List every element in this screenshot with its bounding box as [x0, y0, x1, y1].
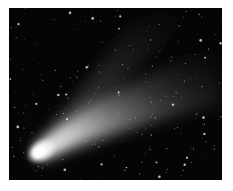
star [188, 55, 189, 56]
star [80, 179, 81, 180]
star [202, 124, 203, 125]
star [178, 41, 179, 42]
star [163, 80, 164, 81]
star [47, 164, 48, 165]
star [177, 127, 178, 128]
star [76, 111, 77, 112]
star [115, 50, 116, 51]
star [98, 71, 99, 72]
star [166, 172, 167, 173]
star [178, 150, 179, 151]
star [202, 139, 203, 140]
star [96, 177, 97, 178]
star [183, 163, 186, 166]
star [55, 70, 56, 71]
star [132, 171, 133, 172]
star [199, 39, 202, 42]
star [160, 100, 161, 101]
star [31, 132, 32, 133]
star [23, 69, 24, 70]
star [77, 71, 78, 72]
star [135, 100, 136, 101]
star [159, 24, 160, 25]
star [76, 77, 77, 78]
star [186, 11, 187, 12]
star [25, 8, 26, 9]
star [12, 147, 13, 148]
star [126, 167, 128, 169]
star [129, 119, 130, 120]
star [149, 25, 150, 26]
star [98, 146, 99, 147]
star [176, 92, 177, 93]
star [199, 14, 200, 15]
star [127, 68, 128, 69]
star [178, 25, 179, 26]
star [23, 127, 24, 128]
star [79, 130, 80, 131]
star [164, 43, 165, 44]
star [171, 56, 172, 57]
star [35, 171, 36, 172]
star [212, 139, 213, 140]
star [56, 116, 57, 117]
star [146, 82, 147, 83]
star [95, 144, 96, 145]
star [123, 78, 124, 79]
star [86, 141, 87, 142]
star [80, 125, 81, 126]
star [60, 84, 61, 85]
star [37, 28, 38, 29]
star [65, 93, 67, 95]
star [193, 148, 194, 149]
star [174, 128, 175, 129]
star [122, 64, 123, 65]
star [123, 141, 124, 142]
star [53, 19, 54, 20]
star [173, 96, 174, 97]
star [95, 93, 96, 94]
star [33, 94, 34, 95]
star [129, 128, 130, 129]
star [202, 116, 205, 119]
star [196, 113, 197, 114]
star [149, 149, 150, 150]
star [145, 128, 146, 129]
star [136, 132, 137, 133]
star [145, 153, 146, 154]
star [91, 100, 92, 101]
star [70, 77, 71, 78]
star [98, 51, 99, 52]
star [184, 81, 185, 82]
star [205, 8, 206, 9]
star [181, 175, 182, 176]
star [24, 39, 25, 40]
star [11, 27, 12, 28]
star [181, 133, 182, 134]
star [91, 17, 94, 20]
star [26, 26, 27, 27]
star [26, 104, 27, 105]
star [15, 26, 16, 27]
star [219, 83, 220, 84]
star [39, 63, 40, 64]
star [85, 21, 86, 22]
star [54, 172, 55, 173]
star [65, 108, 66, 109]
star [72, 81, 73, 82]
star [68, 42, 69, 43]
star [195, 118, 196, 119]
star [88, 102, 89, 103]
star [118, 113, 119, 114]
star [60, 122, 61, 123]
star [124, 170, 125, 171]
star [51, 118, 52, 119]
star [172, 103, 175, 106]
star [135, 118, 136, 119]
star [42, 80, 43, 81]
star [154, 117, 155, 118]
star [146, 31, 147, 32]
star [152, 66, 153, 67]
star [159, 128, 160, 129]
star [156, 162, 158, 164]
